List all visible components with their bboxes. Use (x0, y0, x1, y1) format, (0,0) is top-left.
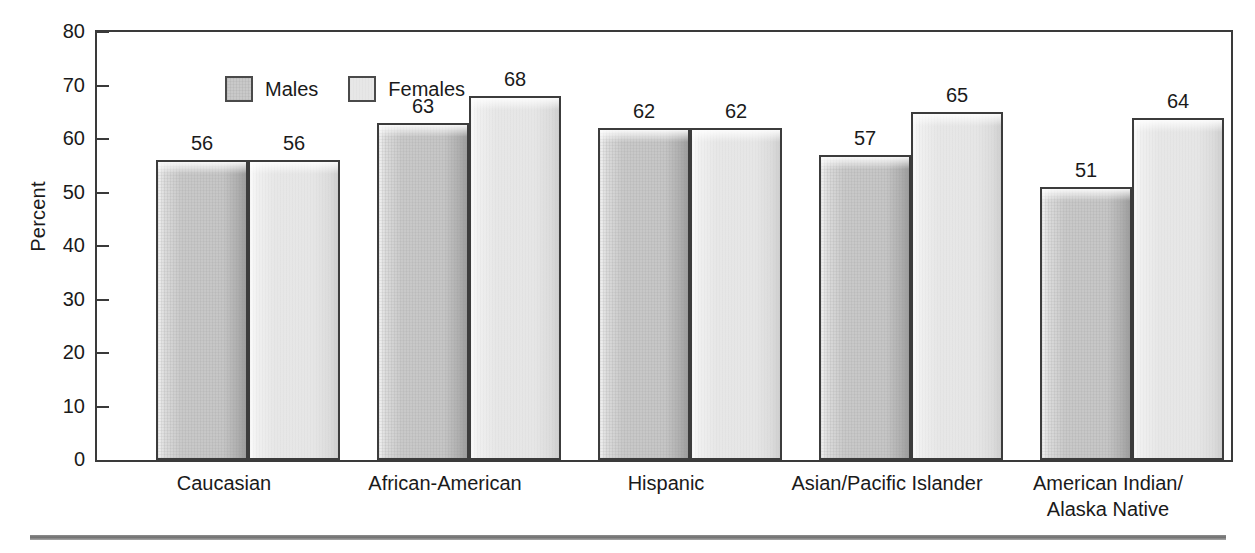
y-tick-mark (97, 138, 109, 140)
legend-item-females[interactable]: Females (348, 76, 465, 102)
bar-hispanic-females[interactable] (690, 128, 782, 460)
y-tick-label: 70 (35, 72, 85, 98)
x-category-hispanic: Hispanic (546, 470, 786, 496)
bar-face (1134, 120, 1222, 458)
bar-face (913, 114, 1001, 458)
y-tick-label: 50 (35, 179, 85, 205)
x-category-african-american: African-American (325, 470, 565, 496)
legend-swatch-males-icon (225, 76, 253, 102)
footer-caption-sliver (30, 548, 730, 553)
y-tick-label: 30 (35, 286, 85, 312)
bar-american-indian-males[interactable] (1040, 187, 1132, 460)
legend-item-males[interactable]: Males (225, 76, 318, 102)
x-category-american-indian: American Indian/ Alaska Native (988, 470, 1228, 522)
y-tick-mark (97, 299, 109, 301)
y-tick-label: 40 (35, 232, 85, 258)
bar-face (821, 157, 909, 458)
bar-face (250, 162, 338, 458)
plot-area: 80 70 60 50 40 30 20 10 (95, 30, 1233, 462)
bar-value-caucasian-females: 56 (248, 132, 340, 155)
x-category-caucasian: Caucasian (104, 470, 344, 496)
bar-asian-pacific-islander-males[interactable] (819, 155, 911, 460)
y-tick-label: 20 (35, 339, 85, 365)
legend-label-males: Males (265, 78, 318, 100)
bar-value-hispanic-males: 62 (598, 100, 690, 123)
legend-label-females: Females (388, 78, 465, 100)
y-tick-label: 10 (35, 393, 85, 419)
bar-african-american-males[interactable] (377, 123, 469, 460)
bar-value-african-american-females: 68 (469, 68, 561, 91)
y-tick-mark (97, 31, 109, 33)
y-tick-label: 0 (35, 446, 85, 472)
footer-rule (30, 535, 1226, 540)
bar-value-american-indian-males: 51 (1040, 159, 1132, 182)
y-tick-label: 80 (35, 18, 85, 44)
bar-caucasian-males[interactable] (156, 160, 248, 460)
y-tick-mark (97, 85, 109, 87)
legend-swatch-females-icon (348, 76, 376, 102)
y-tick-mark (97, 245, 109, 247)
bar-value-hispanic-females: 62 (690, 100, 782, 123)
y-axis-title: Percent (27, 137, 50, 297)
bar-american-indian-females[interactable] (1132, 118, 1224, 460)
bar-value-american-indian-females: 64 (1132, 90, 1224, 113)
y-tick-label: 60 (35, 125, 85, 151)
bar-face (379, 125, 467, 458)
bar-caucasian-females[interactable] (248, 160, 340, 460)
y-tick-mark (97, 192, 109, 194)
bar-face (158, 162, 246, 458)
y-tick-mark (97, 406, 109, 408)
bar-chart-figure: Percent 80 70 60 50 40 30 20 (0, 0, 1255, 553)
bar-hispanic-males[interactable] (598, 128, 690, 460)
bar-value-caucasian-males: 56 (156, 132, 248, 155)
bar-face (692, 130, 780, 458)
bar-value-asian-pacific-females: 65 (911, 84, 1003, 107)
bar-asian-pacific-islander-females[interactable] (911, 112, 1003, 460)
x-category-asian-pacific-islander: Asian/Pacific Islander (762, 470, 1012, 496)
bar-african-american-females[interactable] (469, 96, 561, 460)
bar-face (1042, 189, 1130, 458)
bar-face (471, 98, 559, 458)
bar-face (600, 130, 688, 458)
legend: Males Females (225, 76, 465, 102)
y-tick-mark (97, 352, 109, 354)
bar-value-asian-pacific-males: 57 (819, 127, 911, 150)
